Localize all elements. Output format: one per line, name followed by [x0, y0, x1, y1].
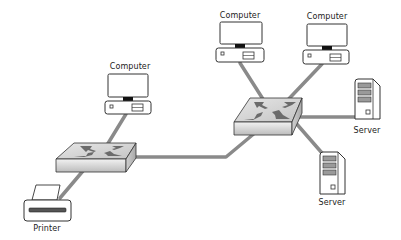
monitor-icon	[307, 24, 347, 46]
server-1-label: Server	[354, 126, 381, 135]
monitor-icon	[220, 22, 262, 44]
printer-1[interactable]	[24, 185, 71, 221]
monitor-icon	[108, 74, 148, 97]
server-2[interactable]	[320, 152, 345, 194]
server-2-label: Server	[319, 198, 346, 207]
printer-paper-icon	[32, 185, 60, 200]
link-switch2-server2	[295, 122, 322, 153]
server-1[interactable]	[355, 79, 380, 119]
computer-3-label: Computer	[307, 12, 348, 21]
switch-2[interactable]	[234, 98, 302, 135]
computer-1[interactable]	[105, 74, 151, 114]
computer-1-label: Computer	[110, 62, 151, 71]
links	[60, 63, 356, 198]
computer-3[interactable]	[303, 24, 349, 64]
computer-base-icon	[105, 101, 151, 114]
switch-1[interactable]	[56, 143, 136, 172]
monitor-stand	[322, 46, 332, 50]
computer-2[interactable]	[216, 22, 264, 62]
printer-1-label: Printer	[33, 224, 60, 233]
monitor-stand	[123, 97, 133, 101]
computer-2-label: Computer	[220, 11, 261, 20]
monitor-stand	[235, 44, 245, 48]
